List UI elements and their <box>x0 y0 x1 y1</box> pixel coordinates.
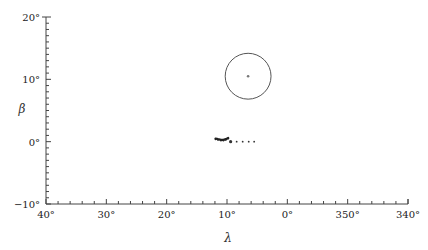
trail-dot <box>253 141 255 143</box>
x-tick-label: 350° <box>336 209 360 220</box>
trail-dot <box>248 141 250 143</box>
x-tick-label: 0° <box>282 209 293 220</box>
x-tick-label: 30° <box>97 209 115 220</box>
ticks <box>46 17 408 204</box>
y-tick-label: 10° <box>22 74 40 85</box>
x-axis-label: λ <box>223 231 232 245</box>
trail-dot <box>242 141 244 143</box>
y-tick-label: 20° <box>22 12 40 23</box>
x-tick-label: 20° <box>158 209 176 220</box>
x-tick-label: 340° <box>396 209 420 220</box>
x-tick-label: 10° <box>218 209 236 220</box>
y-tick-label: 0° <box>29 137 40 148</box>
plot-data <box>215 53 272 143</box>
tick-labels: 40°30°20°10°0°350°340°20°10°0°−10° <box>14 12 420 220</box>
y-tick-label: −10° <box>14 199 40 210</box>
trail-dot <box>229 140 232 143</box>
y-axis-label: β <box>18 102 26 116</box>
trail-dot <box>236 141 238 143</box>
chart: 40°30°20°10°0°350°340°20°10°0°−10° λ β <box>0 0 428 250</box>
axes <box>42 17 408 204</box>
x-tick-label: 40° <box>37 209 55 220</box>
circle-center-point <box>247 75 250 78</box>
